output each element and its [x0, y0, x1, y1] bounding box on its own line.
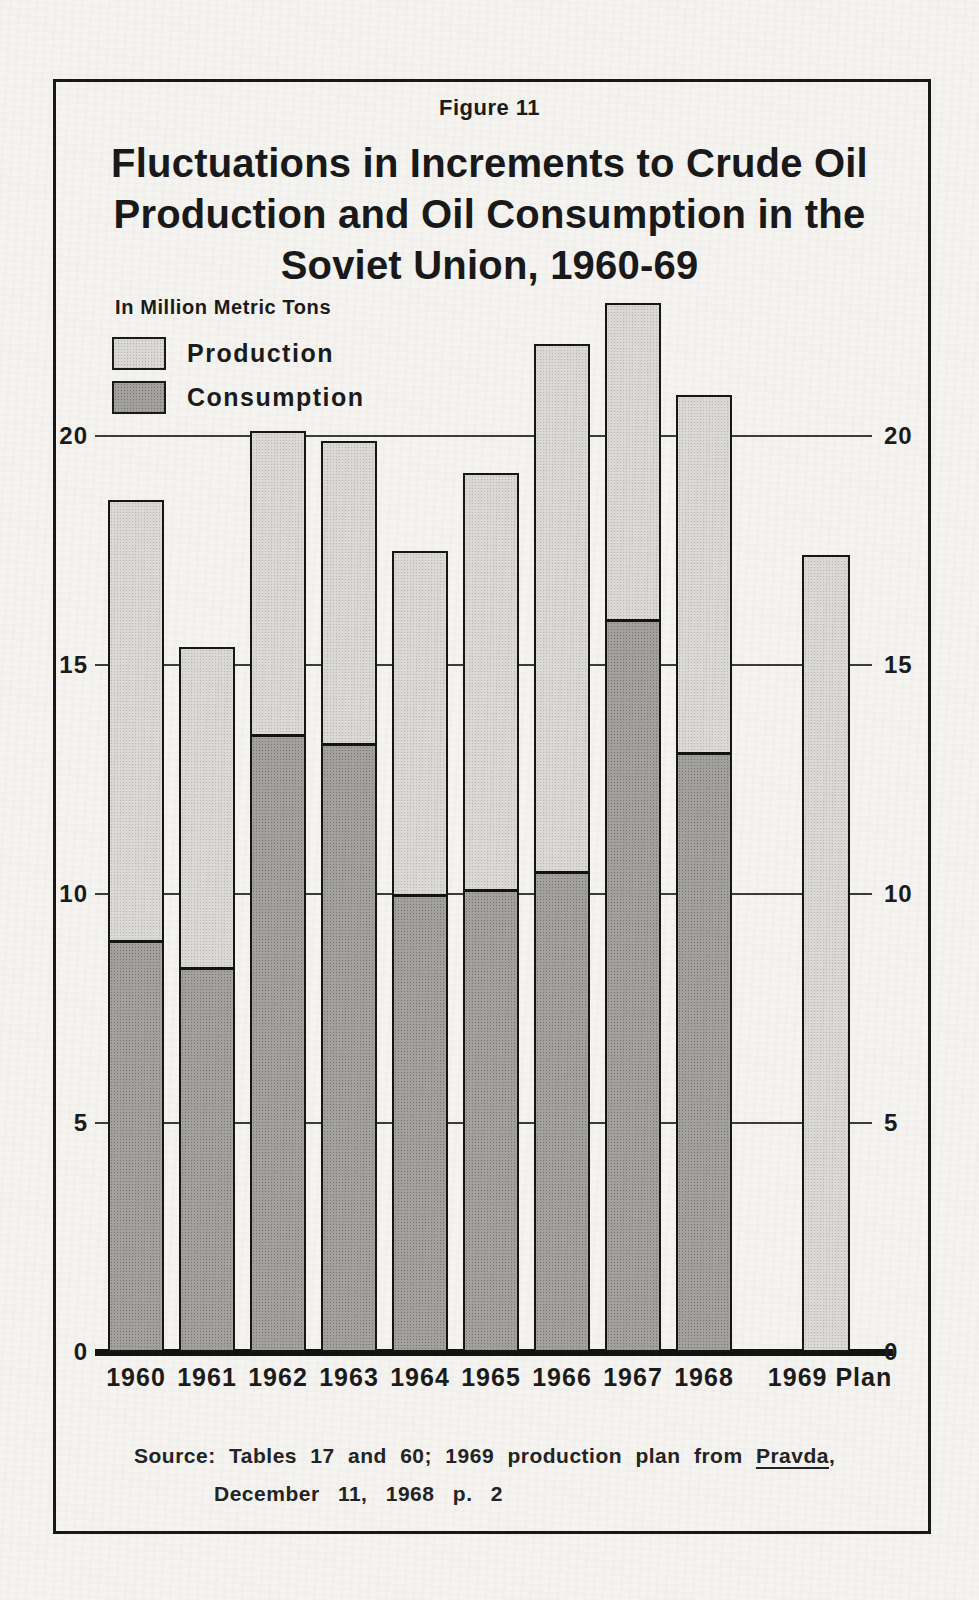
legend-label-consumption: Consumption: [187, 383, 365, 412]
legend-item-consumption: Consumption: [112, 381, 365, 414]
figure-number: Figure 11: [0, 95, 979, 121]
source-line-1: Source: Tables 17 and 60; 1969 productio…: [134, 1444, 854, 1468]
chart-title: Fluctuations in Increments to Crude Oil …: [0, 138, 979, 291]
axis-unit-label: In Million Metric Tons: [115, 296, 365, 319]
source-note: Source: Tables 17 and 60; 1969 productio…: [134, 1444, 854, 1506]
chart-title-line-1: Fluctuations in Increments to Crude Oil: [0, 138, 979, 189]
legend-label-production: Production: [187, 339, 334, 368]
consumption-swatch: [112, 381, 166, 414]
chart-title-line-2: Production and Oil Consumption in the: [0, 189, 979, 240]
production-swatch: [112, 337, 166, 370]
chart-title-line-3: Soviet Union, 1960-69: [0, 240, 979, 291]
legend: In Million Metric Tons Production Consum…: [112, 296, 365, 425]
legend-item-production: Production: [112, 337, 365, 370]
scanned-figure-page: Figure 11 Fluctuations in Increments to …: [0, 0, 979, 1600]
source-pravda: Pravda: [756, 1444, 829, 1467]
source-line-2: December 11, 1968 p. 2: [214, 1482, 854, 1506]
